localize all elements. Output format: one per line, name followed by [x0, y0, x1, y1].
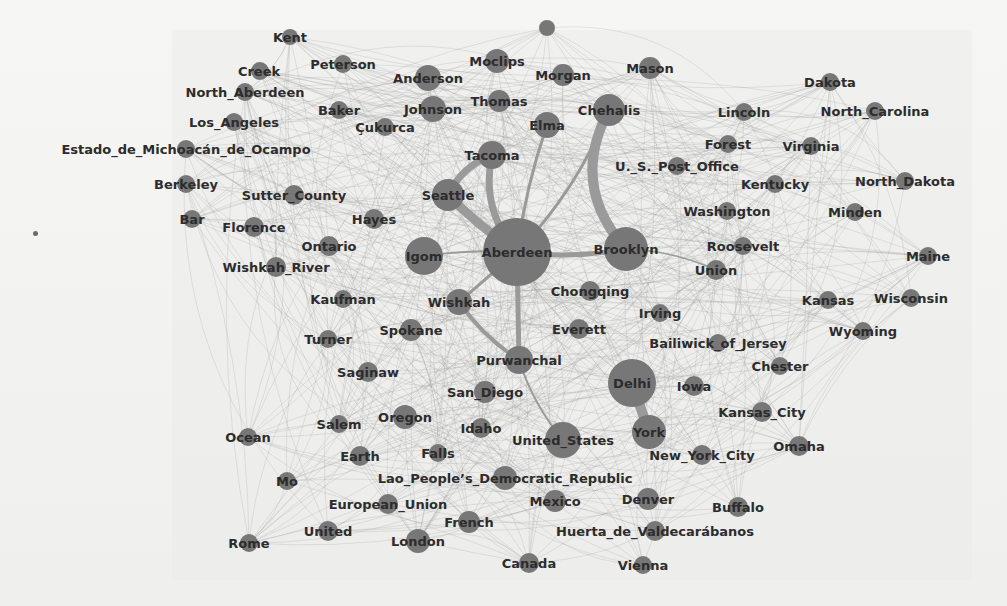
node-label: Seattle — [422, 188, 475, 203]
node-label: North_Aberdeen — [186, 85, 305, 101]
node-label: United — [304, 524, 353, 539]
node-label: Wishkah — [428, 295, 490, 310]
node-label: Turner — [304, 332, 352, 347]
node-label: Everett — [552, 322, 606, 337]
node-label: Berkeley — [154, 177, 219, 192]
node-label: Çukurca — [355, 120, 415, 135]
graph-edge — [830, 82, 905, 181]
node-label: Mo — [276, 474, 298, 489]
node-label: French — [444, 515, 494, 530]
node-label: North_Dakota — [855, 174, 955, 190]
graph-edge — [368, 256, 424, 372]
node-label: Kansas — [802, 293, 855, 308]
node-label: Estado_de_Michoacán_de_Ocampo — [61, 142, 310, 158]
node-label: Creek — [238, 64, 281, 79]
node-label: York — [632, 425, 666, 440]
node-label: Virginia — [783, 139, 840, 154]
node-label: Falls — [421, 446, 455, 461]
node-label: Washington — [683, 204, 770, 219]
node-label: London — [391, 534, 445, 549]
node-label: Roosevelt — [707, 239, 779, 254]
node-label: Kansas_City — [718, 405, 806, 421]
node-label: Union — [695, 263, 737, 278]
node-label: Huerta_de_Valdecarábanos — [556, 524, 754, 540]
node-label: Denver — [622, 492, 675, 507]
node-label: Iowa — [677, 379, 712, 394]
node-top-unlabeled — [539, 20, 555, 36]
graph-edge — [799, 298, 911, 446]
node-label: Kentucky — [741, 177, 810, 192]
node-label: Sutter_County — [242, 188, 347, 204]
node-label: Bar — [179, 212, 205, 227]
node-label: North_Carolina — [821, 104, 930, 120]
node-label: Tacoma — [465, 148, 520, 163]
node-label: Vienna — [618, 558, 668, 573]
node-label: Elma — [529, 118, 565, 133]
node-label: San_Diego — [447, 385, 523, 401]
node-label: Lincoln — [718, 105, 770, 120]
node-label: Idaho — [460, 421, 501, 436]
node-label: Hayes — [352, 212, 397, 227]
node-label: Moclips — [469, 54, 525, 69]
node-label: United_States — [512, 433, 614, 449]
node-label: Chester — [752, 359, 809, 374]
node-label: Kaufman — [310, 292, 375, 307]
node-label: Bailiwick_of_Jersey — [649, 336, 787, 352]
node-label: Maine — [906, 249, 950, 264]
graph-canvas: KentCreekPetersonAndersonMoclipsMorganMa… — [0, 0, 1007, 606]
node-label: Spokane — [379, 323, 442, 338]
node-label: Mexico — [529, 494, 580, 509]
node-label: Anderson — [393, 71, 463, 86]
node-label: Igom — [406, 249, 443, 264]
node-label: Oregon — [378, 410, 432, 425]
node-label: Buffalo — [712, 500, 764, 515]
node-label: Irving — [639, 306, 682, 321]
graph-edge — [650, 68, 728, 144]
node-label: Wyoming — [829, 324, 897, 339]
node-label: Ocean — [225, 430, 271, 445]
graph-edge — [438, 453, 643, 565]
node-label: Baker — [318, 103, 361, 118]
node-label: Kent — [273, 30, 307, 45]
node-label: Omaha — [773, 439, 824, 454]
node-label: Aberdeen — [482, 245, 553, 260]
network-graph-figure: KentCreekPetersonAndersonMoclipsMorganMa… — [0, 0, 1007, 606]
node-label: Wisconsin — [874, 291, 948, 306]
node-label: Los_Angeles — [189, 115, 279, 131]
node-label: Forest — [705, 137, 751, 152]
node-label: Salem — [317, 417, 362, 432]
node-label: Delhi — [613, 376, 651, 391]
node-label: Saginaw — [337, 365, 399, 380]
node-label: Wishkah_River — [222, 260, 330, 276]
node-label: Florence — [222, 220, 285, 235]
node-label: U._S._Post_Office — [615, 159, 739, 175]
node-label: Ontario — [301, 239, 356, 254]
node-label: Mason — [626, 61, 674, 76]
node-label: Canada — [502, 556, 556, 571]
node-label: Chongqing — [551, 284, 630, 299]
node-label: New_York_City — [649, 448, 755, 464]
node-label: Earth — [340, 449, 380, 464]
node-label: Thomas — [470, 94, 527, 109]
node-label: Lao_People’s_Democratic_Republic — [378, 471, 633, 487]
node-label: Chehalis — [578, 103, 641, 118]
node-label: European_Union — [329, 497, 448, 513]
node-label: Minden — [828, 205, 882, 220]
graph-edge — [186, 184, 249, 543]
node-label: Dakota — [804, 75, 856, 90]
node-label: Johnson — [403, 102, 462, 117]
node-label: Purwanchal — [476, 353, 561, 368]
node-label: Brooklyn — [593, 242, 658, 257]
node-label: Peterson — [310, 57, 376, 72]
graph-edge — [799, 298, 911, 446]
stray-mark — [33, 231, 38, 236]
node-label: Rome — [228, 536, 269, 551]
graph-edge — [249, 481, 287, 543]
node-label: Morgan — [535, 68, 591, 83]
